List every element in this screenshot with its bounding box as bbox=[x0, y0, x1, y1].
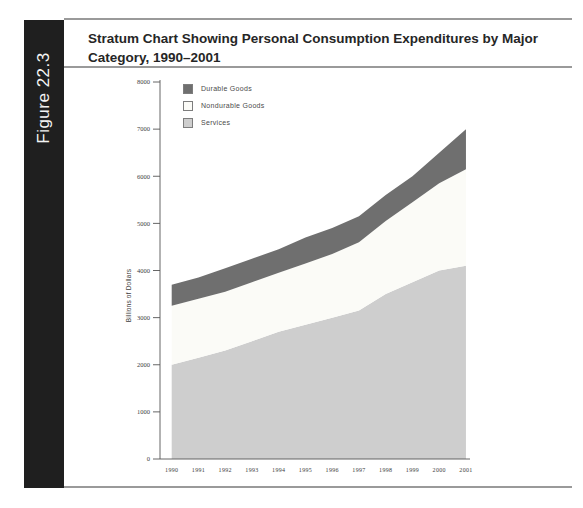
figure-title: Stratum Chart Showing Personal Consumpti… bbox=[88, 29, 570, 67]
x-tick-label: 1995 bbox=[299, 467, 312, 473]
y-tick-label: 6000 bbox=[137, 173, 150, 180]
y-tick-label: 8000 bbox=[137, 78, 150, 85]
y-tick-label: 0 bbox=[147, 455, 150, 462]
figure-sidebar: Figure 22.3 bbox=[24, 20, 64, 488]
x-tick-label: 1997 bbox=[352, 467, 365, 473]
x-tick-label: 1996 bbox=[326, 467, 339, 473]
top-rule bbox=[64, 18, 572, 20]
figure-page: Figure 22.3 Stratum Chart Showing Person… bbox=[0, 0, 583, 508]
figure-title-line2: Category, 1990–2001 bbox=[88, 48, 570, 67]
stratum-chart: 0100020003000400050006000700080001990199… bbox=[118, 75, 480, 487]
y-tick-label: 2000 bbox=[137, 361, 150, 368]
figure-title-line1: Stratum Chart Showing Personal Consumpti… bbox=[88, 29, 570, 48]
y-tick-label: 5000 bbox=[137, 220, 150, 227]
x-tick-label: 1991 bbox=[192, 467, 205, 473]
x-tick-label: 2001 bbox=[459, 467, 472, 473]
y-tick-label: 7000 bbox=[137, 125, 150, 132]
y-tick-label: 1000 bbox=[137, 408, 150, 415]
x-tick-label: 1998 bbox=[379, 467, 392, 473]
x-tick-label: 1992 bbox=[219, 467, 232, 473]
y-tick-label: 4000 bbox=[137, 267, 150, 274]
x-tick-label: 1999 bbox=[406, 467, 419, 473]
y-axis-title: Billions of Dollars bbox=[125, 268, 132, 322]
x-tick-label: 1994 bbox=[272, 467, 285, 473]
x-tick-label: 1993 bbox=[245, 467, 258, 473]
y-tick-label: 3000 bbox=[137, 314, 150, 321]
x-tick-label: 1990 bbox=[165, 467, 178, 473]
figure-number-label: Figure 22.3 bbox=[34, 52, 54, 144]
x-tick-label: 2000 bbox=[433, 467, 446, 473]
